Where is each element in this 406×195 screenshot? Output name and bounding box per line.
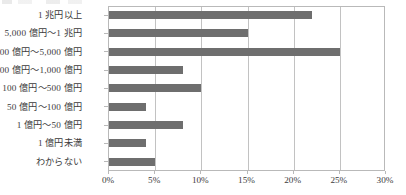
x-tick-label-15: 15% — [238, 174, 255, 186]
bar-7 — [109, 139, 146, 147]
bar-row: 1,000 億円〜5,000 億円 — [0, 43, 406, 61]
x-tick-label-10: 10% — [192, 174, 209, 186]
bar-chart: 1 兆円以上 5,000 億円〜1 兆円 1,000 億円〜5,000 億円 5… — [0, 0, 406, 195]
x-tick-label-5: 5% — [148, 174, 160, 186]
category-label-2: 1,000 億円〜5,000 億円 — [0, 47, 82, 57]
y-tick-mark — [104, 106, 108, 107]
x-tick-label-30: 30% — [377, 174, 394, 186]
bar-8 — [109, 158, 155, 166]
x-tick-label-25: 25% — [330, 174, 347, 186]
y-tick-mark — [104, 125, 108, 126]
x-tick-label-20: 20% — [284, 174, 301, 186]
y-tick-mark — [104, 70, 108, 71]
x-axis-tick-labels: 0% 5% 10% 15% 20% 25% 30% — [0, 174, 406, 188]
scan-artifact — [2, 0, 92, 4]
bar-row: 100 億円〜500 億円 — [0, 79, 406, 97]
category-label-1: 5,000 億円〜1 兆円 — [0, 28, 82, 38]
x-tick-label-0: 0% — [102, 174, 114, 186]
y-tick-mark — [104, 15, 108, 16]
bar-rows: 1 兆円以上 5,000 億円〜1 兆円 1,000 億円〜5,000 億円 5… — [0, 6, 406, 171]
bar-row: わからない — [0, 153, 406, 171]
bar-row: 5,000 億円〜1 兆円 — [0, 24, 406, 42]
y-tick-mark — [104, 143, 108, 144]
category-label-4: 100 億円〜500 億円 — [0, 83, 82, 93]
bar-1 — [109, 29, 248, 37]
bar-row: 50 億円〜100 億円 — [0, 98, 406, 116]
bar-5 — [109, 103, 146, 111]
category-label-7: 1 億円未満 — [0, 138, 82, 148]
y-tick-mark — [104, 51, 108, 52]
category-label-5: 50 億円〜100 億円 — [0, 102, 82, 112]
bar-2 — [109, 48, 340, 56]
category-label-8: わからない — [0, 157, 82, 167]
bar-row: 1 億円未満 — [0, 134, 406, 152]
bar-row: 1 億円〜50 億円 — [0, 116, 406, 134]
bar-4 — [109, 84, 201, 92]
y-tick-mark — [104, 33, 108, 34]
bar-row: 1 兆円以上 — [0, 6, 406, 24]
bar-3 — [109, 66, 183, 74]
bar-row: 500 億円〜1,000 億円 — [0, 61, 406, 79]
category-label-3: 500 億円〜1,000 億円 — [0, 65, 82, 75]
category-label-0: 1 兆円以上 — [0, 10, 82, 20]
y-tick-mark — [104, 88, 108, 89]
category-label-6: 1 億円〜50 億円 — [0, 120, 82, 130]
bar-0 — [109, 11, 312, 19]
bar-6 — [109, 121, 183, 129]
y-tick-mark — [104, 161, 108, 162]
